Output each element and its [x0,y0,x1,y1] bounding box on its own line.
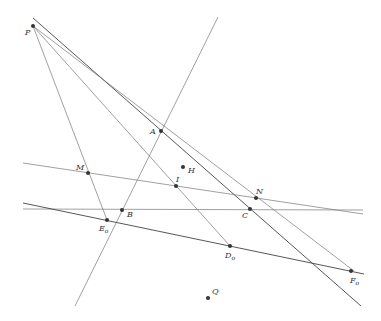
point-D [228,244,232,248]
line-PA-N-F [33,26,354,271]
label-D: Do [224,251,235,261]
label-N: N [255,187,264,196]
label-M: M [75,163,85,172]
point-C [248,207,252,211]
line-BC [23,209,363,210]
label-H: H [187,166,196,175]
line-PE [33,26,107,220]
construction-points [31,24,353,300]
point-E [105,218,109,222]
label-B: B [126,210,133,219]
label-C: C [242,211,248,220]
label-I: I [175,175,180,184]
label-E: Eo [98,224,109,234]
label-A: A [149,127,156,136]
point-N [254,196,258,200]
point-labels: PAHIMNBCEoDoFoQ [24,28,360,296]
geometry-diagram: PAHIMNBCEoDoFoQ [0,0,381,321]
point-B [120,208,124,212]
point-H [181,165,185,169]
point-I [174,184,178,188]
point-P [31,24,35,28]
label-Q: Q [212,287,219,296]
point-M [86,171,90,175]
point-F [349,269,353,273]
point-Q [206,296,210,300]
label-F: Fo [349,276,360,286]
construction-lines [23,17,364,306]
line-EF [23,203,364,274]
label-P: P [24,28,31,37]
point-A [159,129,163,133]
